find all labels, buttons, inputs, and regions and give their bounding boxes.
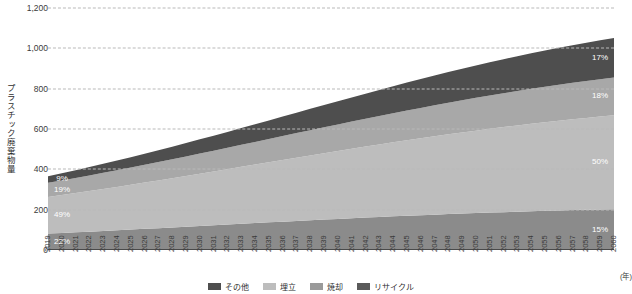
x-tick-label: 2039 [320, 235, 328, 252]
y-tick-label: 1,200 [4, 4, 48, 13]
x-tick-label: 2026 [141, 235, 149, 252]
gridline [48, 169, 614, 170]
y-tick-label: 800 [4, 84, 48, 93]
series-percentage-label: 18% [592, 92, 608, 100]
legend-swatch-icon [310, 283, 323, 290]
legend-label: リサイクル [374, 281, 414, 292]
x-tick-label: 2029 [182, 235, 190, 252]
legend-label: その他 [225, 281, 249, 292]
legend-swatch-icon [263, 283, 276, 290]
y-axis-tick-labels: 02004006008001,0001,200 [0, 0, 48, 258]
x-tick-label: 2040 [334, 235, 342, 252]
series-percentage-label: 49% [54, 211, 70, 219]
gridline [48, 8, 614, 9]
y-tick-label: 200 [4, 205, 48, 214]
series-percentage-label: 19% [54, 186, 70, 194]
series-percentage-label: 17% [592, 54, 608, 62]
x-tick-label: 2023 [99, 235, 107, 252]
legend-item[interactable]: 焼却 [310, 281, 343, 292]
legend-item[interactable]: リサイクル [357, 281, 414, 292]
legend-label: 焼却 [327, 281, 343, 292]
legend-swatch-icon [357, 283, 370, 290]
x-tick-label: 2038 [307, 235, 315, 252]
x-tick-label: 2059 [596, 235, 604, 252]
series-percentage-label: 9% [56, 175, 68, 183]
x-tick-label: 2033 [238, 235, 246, 252]
y-tick-label: 400 [4, 165, 48, 174]
x-tick-label: 2051 [486, 235, 494, 252]
legend-item[interactable]: 埋立 [263, 281, 296, 292]
x-tick-label: 2041 [348, 235, 356, 252]
gridline [48, 48, 614, 49]
x-tick-label: 2037 [293, 235, 301, 252]
x-tick-label: 2052 [500, 235, 508, 252]
x-tick-label: 2056 [555, 235, 563, 252]
plot-area: 9%19%49%22%17%18%50%15% [48, 8, 614, 250]
x-axis-tick-labels: (年) 201920202021202220232024202520262027… [48, 252, 614, 282]
x-tick-label: 2057 [569, 235, 577, 252]
x-tick-label: 2025 [127, 235, 135, 252]
x-tick-label: 2046 [417, 235, 425, 252]
legend-swatch-icon [208, 283, 221, 290]
y-tick-label: 600 [4, 125, 48, 134]
x-tick-label: 2034 [251, 235, 259, 252]
x-tick-label: 2020 [58, 235, 66, 252]
x-tick-label: 2055 [541, 235, 549, 252]
x-tick-label: 2030 [196, 235, 204, 252]
x-tick-label: 2031 [210, 235, 218, 252]
chart-legend: その他埋立焼却リサイクル [0, 281, 622, 292]
x-tick-label: 2032 [224, 235, 232, 252]
gridline [48, 88, 614, 89]
x-tick-label: 2021 [72, 235, 80, 252]
legend-label: 埋立 [280, 281, 296, 292]
x-tick-label: 2027 [155, 235, 163, 252]
x-tick-label: 2042 [362, 235, 370, 252]
x-tick-label: 2053 [514, 235, 522, 252]
x-tick-label: 2019 [44, 235, 52, 252]
y-tick-label: 0 [4, 246, 48, 255]
series-percentage-label: 15% [592, 226, 608, 234]
x-tick-label: 2035 [265, 235, 273, 252]
series-percentage-label: 50% [592, 158, 608, 166]
x-tick-label: 2058 [583, 235, 591, 252]
x-tick-label: 2060 [610, 235, 618, 252]
x-tick-label: 2024 [113, 235, 121, 252]
x-tick-label: 2050 [472, 235, 480, 252]
x-tick-label: 2036 [279, 235, 287, 252]
x-axis-unit-label: (年) [620, 270, 632, 281]
gridline [48, 129, 614, 130]
x-tick-label: 2028 [168, 235, 176, 252]
x-tick-label: 2049 [458, 235, 466, 252]
gridline [48, 209, 614, 210]
legend-item[interactable]: その他 [208, 281, 249, 292]
x-tick-label: 2054 [527, 235, 535, 252]
y-tick-label: 1,000 [4, 44, 48, 53]
x-tick-label: 2045 [403, 235, 411, 252]
x-tick-label: 2047 [431, 235, 439, 252]
x-tick-label: 2043 [376, 235, 384, 252]
x-tick-label: 2048 [445, 235, 453, 252]
x-tick-label: 2022 [86, 235, 94, 252]
x-tick-label: 2044 [389, 235, 397, 252]
